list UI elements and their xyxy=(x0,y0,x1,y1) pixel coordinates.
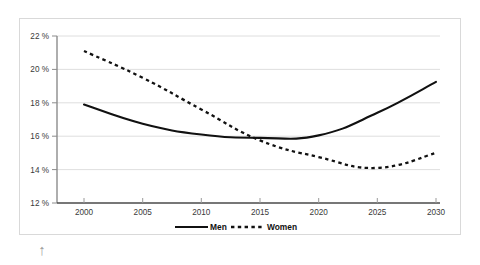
y-tick-label-14: 14 % xyxy=(30,166,49,175)
y-tick-label-12: 12 % xyxy=(30,199,49,208)
legend-label-men: Men xyxy=(210,222,227,232)
x-tick-label-2005: 2005 xyxy=(134,208,153,217)
x-tick-label-2020: 2020 xyxy=(310,208,329,217)
chart-container: 22 % 20 % 18 % 16 % 14 % 12 % 2000 xyxy=(19,18,461,235)
line-chart: 22 % 20 % 18 % 16 % 14 % 12 % 2000 xyxy=(20,19,460,234)
y-tick-label-16: 16 % xyxy=(30,132,49,141)
up-arrow-icon: ↑ xyxy=(34,241,50,259)
plot-area: 22 % 20 % 18 % 16 % 14 % 12 % 2000 xyxy=(20,19,460,234)
x-tick-label-2010: 2010 xyxy=(192,208,211,217)
series-line-men xyxy=(84,82,436,139)
y-axis xyxy=(52,36,57,203)
y-tick-label-22: 22 % xyxy=(30,32,49,41)
x-tick-label-2000: 2000 xyxy=(75,208,94,217)
chart-legend: Men Women xyxy=(175,222,297,232)
legend-label-women: Women xyxy=(267,222,297,232)
data-series xyxy=(84,51,436,168)
x-tick-label-2015: 2015 xyxy=(251,208,270,217)
x-tick-label-2025: 2025 xyxy=(368,208,387,217)
y-tick-label-20: 20 % xyxy=(30,65,49,74)
gridlines xyxy=(57,36,440,170)
y-axis-labels: 22 % 20 % 18 % 16 % 14 % 12 % xyxy=(30,32,49,208)
x-axis xyxy=(57,198,440,203)
x-tick-label-2030: 2030 xyxy=(427,208,446,217)
y-tick-label-18: 18 % xyxy=(30,99,49,108)
x-axis-labels: 2000 2005 2010 2015 2020 2025 2030 xyxy=(75,208,446,217)
